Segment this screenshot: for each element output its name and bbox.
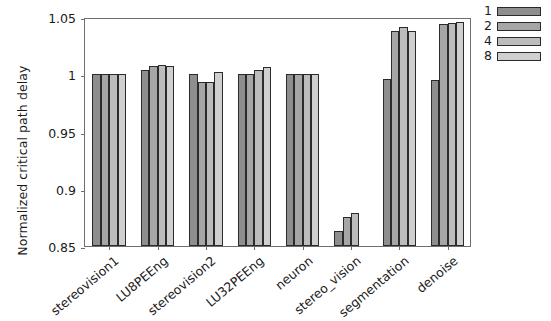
bar (286, 74, 294, 246)
legend-swatch (497, 52, 541, 61)
bar (311, 74, 319, 246)
legend-item-label: 4 (484, 35, 492, 47)
bar-group (92, 19, 125, 246)
bar (254, 70, 262, 246)
plot-area (84, 18, 471, 247)
y-tick-label: 1.05 (16, 11, 76, 26)
y-tick-label: 0.85 (16, 240, 76, 255)
y-tick-mark (81, 248, 85, 249)
bar (334, 231, 342, 246)
bar (431, 80, 439, 246)
x-tick-label: stereovision1 (0, 253, 122, 321)
x-tick-label: LU8PEEng (7, 253, 170, 321)
bar (263, 67, 271, 246)
y-tick-mark (81, 76, 85, 77)
y-tick-mark (81, 134, 85, 135)
bar (158, 65, 166, 246)
x-tick-mark (254, 246, 255, 250)
x-tick-label: LU32PEEng (104, 253, 267, 321)
x-tick-mark (158, 246, 159, 250)
bar-group (383, 19, 416, 246)
bar (343, 217, 351, 246)
bar (101, 74, 109, 246)
legend-item-label: 8 (484, 50, 492, 62)
bar-group (189, 19, 222, 246)
legend-item: 2 (484, 20, 548, 32)
bar-group (334, 19, 367, 246)
bar (439, 24, 447, 246)
bar (109, 74, 117, 246)
x-tick-mark (399, 246, 400, 250)
x-tick-label: neuron (152, 253, 315, 321)
x-tick-mark (303, 246, 304, 250)
bar (456, 22, 464, 246)
x-tick-mark (206, 246, 207, 250)
y-tick-mark (81, 19, 85, 20)
x-tick-mark (351, 246, 352, 250)
bar (92, 74, 100, 246)
bar (351, 213, 359, 246)
x-tick-mark (109, 246, 110, 250)
legend-item: 8 (484, 50, 548, 62)
bar (408, 31, 416, 246)
bar (206, 82, 214, 246)
bar (294, 74, 302, 246)
bar-group (141, 19, 174, 246)
bar (149, 66, 157, 246)
legend-item: 1 (484, 5, 548, 17)
y-tick-label: 1 (16, 68, 76, 83)
y-axis-title: Normalized critical path delay (26, 0, 52, 321)
y-tick-mark (81, 191, 85, 192)
legend-item: 4 (484, 35, 548, 47)
bar-chart-figure: Normalized critical path delay 0.850.90.… (0, 0, 551, 321)
bar (198, 82, 206, 246)
bar (118, 74, 126, 246)
bar (246, 74, 254, 246)
x-tick-label: denoise (298, 253, 461, 321)
bar (448, 23, 456, 246)
legend-swatch (497, 7, 541, 16)
legend: 1248 (484, 5, 548, 62)
x-tick-label: segmentation (249, 253, 412, 321)
bar (238, 74, 246, 246)
bar-group (286, 19, 319, 246)
legend-item-label: 1 (484, 5, 492, 17)
bar (303, 74, 311, 246)
x-tick-label: stereo_vision (201, 253, 364, 321)
bar (391, 31, 399, 246)
bar (141, 70, 149, 246)
bar (189, 74, 197, 246)
bar-group (238, 19, 271, 246)
legend-item-label: 2 (484, 20, 492, 32)
x-tick-mark (448, 246, 449, 250)
bar (383, 79, 391, 246)
y-tick-label: 0.9 (16, 182, 76, 197)
y-axis-title-text: Normalized critical path delay (15, 65, 30, 255)
bar-group (431, 19, 464, 246)
y-tick-label: 0.95 (16, 125, 76, 140)
bar (399, 27, 407, 246)
legend-swatch (497, 22, 541, 31)
x-tick-label: stereovision2 (56, 253, 219, 321)
bar (166, 66, 174, 246)
bar (214, 72, 222, 246)
legend-swatch (497, 37, 541, 46)
